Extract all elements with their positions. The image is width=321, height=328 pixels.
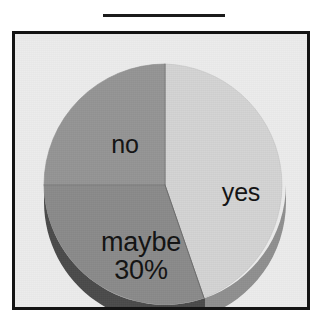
chart-frame: no yes maybe 30% — [12, 31, 310, 310]
pie-slice-no[interactable] — [44, 64, 165, 185]
horizontal-rule — [103, 14, 225, 17]
pie-label-maybe: maybe — [101, 227, 181, 258]
pie-label-yes: yes — [222, 178, 260, 207]
pie-label-maybe-value: 30% — [114, 255, 167, 286]
pie-chart: no yes maybe 30% — [15, 34, 307, 307]
figure-root: no yes maybe 30% — [0, 0, 321, 328]
pie-label-no: no — [111, 130, 138, 159]
